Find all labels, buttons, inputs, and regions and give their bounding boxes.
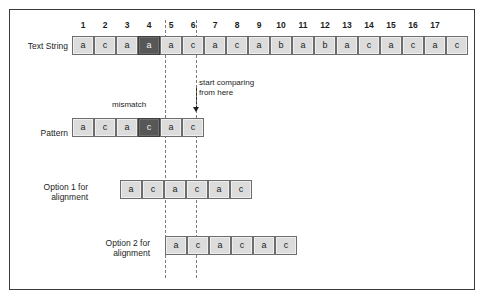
start-comparing-arrow-shaft [196,88,197,109]
cell-option-2-6: c [275,236,297,255]
index-number: 13 [336,20,358,30]
cell-pattern-2: c [94,118,116,137]
cell-text-string-10: b [270,36,292,55]
index-number: 2 [94,20,116,30]
cell-text-string-18: c [446,36,468,55]
cell-text-string-5: a [160,36,182,55]
cell-option-2-3: a [209,236,231,255]
annotation-start-comparing: start comparing from here [199,78,271,97]
cell-text-string-3: a [116,36,138,55]
index-number: 15 [380,20,402,30]
cell-option-1-5: a [208,180,230,199]
cell-text-string-1: a [72,36,94,55]
index-number: 16 [402,20,424,30]
cell-pattern-6: c [182,118,204,137]
cell-option-2-2: c [187,236,209,255]
cell-pattern-3: a [116,118,138,137]
index-number: 11 [292,20,314,30]
cell-option-2-5: a [253,236,275,255]
cell-text-string-4: a [138,36,160,55]
cell-text-string-11: a [292,36,314,55]
row-label-text-string: Text String [10,41,68,51]
row-label-pattern: Pattern [10,128,68,138]
cell-pattern-4: c [138,118,160,137]
cell-text-string-7: a [204,36,226,55]
cell-text-string-14: c [358,36,380,55]
cell-option-2-1: a [165,236,187,255]
index-number: 9 [248,20,270,30]
index-number: 7 [204,20,226,30]
cell-pattern-1: a [72,118,94,137]
cell-text-string-16: c [402,36,424,55]
index-number: 3 [116,20,138,30]
index-number: 5 [160,20,182,30]
cell-text-string-13: a [336,36,358,55]
row-label-option-2: Option 2 for alignment [10,238,150,258]
cell-text-string-2: c [94,36,116,55]
cell-text-string-8: c [226,36,248,55]
cell-text-string-9: a [248,36,270,55]
index-number: 8 [226,20,248,30]
cell-option-2-4: c [231,236,253,255]
cell-pattern-5: a [160,118,182,137]
start-comparing-arrow-head [193,107,199,112]
cell-option-1-2: c [142,180,164,199]
index-number: 17 [424,20,446,30]
cell-text-string-17: a [424,36,446,55]
row-label-option-1: Option 1 for alignment [10,182,88,202]
index-number: 1 [72,20,94,30]
cell-option-1-4: c [186,180,208,199]
cell-text-string-15: a [380,36,402,55]
index-number: 10 [270,20,292,30]
index-number: 4 [138,20,160,30]
cell-text-string-6: c [182,36,204,55]
cell-option-1-1: a [120,180,142,199]
index-number: 12 [314,20,336,30]
index-number: 6 [182,20,204,30]
cell-text-string-12: b [314,36,336,55]
cell-option-1-6: c [230,180,252,199]
index-number: 14 [358,20,380,30]
annotation-mismatch: mismatch [112,100,172,110]
cell-option-1-3: a [164,180,186,199]
diagram-canvas: 1234567891011121314151617 Text String ac… [0,0,496,304]
